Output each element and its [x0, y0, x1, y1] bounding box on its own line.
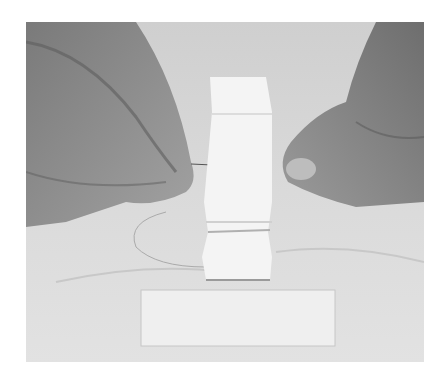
sewing-photo [26, 22, 424, 362]
thumbnail [286, 158, 316, 180]
folded-ribbon [202, 77, 272, 280]
photo-illustration [26, 22, 424, 362]
flat-ribbon-strip [141, 290, 335, 346]
